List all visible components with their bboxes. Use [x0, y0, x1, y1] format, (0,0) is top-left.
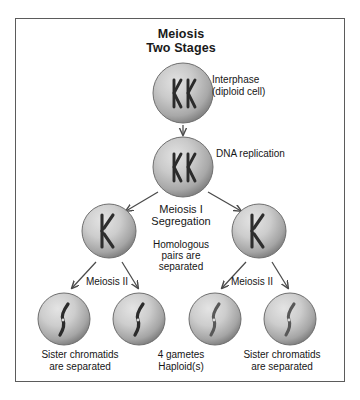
title-line-2: Two Stages	[16, 41, 346, 55]
replication-cell	[153, 137, 213, 197]
centromere	[104, 230, 107, 233]
label-meiosis-two-right: Meiosis II	[212, 276, 292, 288]
centromere	[254, 230, 257, 233]
label-meiosis-one-sub: Homologous pairs are separated	[111, 239, 251, 272]
label-dna-replication: DNA replication	[216, 148, 285, 160]
gamete-cell-2	[113, 293, 165, 345]
interphase-cell	[153, 63, 213, 123]
gamete-cell-3	[189, 293, 241, 345]
page-title: Meiosis Two Stages	[16, 27, 346, 55]
caption-middle: 4 gametes Haploid(s)	[132, 349, 230, 372]
gamete-cell-1	[38, 293, 90, 345]
caption-left: Sister chromatids are separated	[21, 349, 139, 372]
gamete-cell-4	[264, 293, 316, 345]
label-meiosis-one-block: Meiosis I Segregation Homologous pairs a…	[111, 191, 251, 284]
caption-right: Sister chromatids are separated	[223, 349, 341, 372]
label-meiosis-two-left: Meiosis II	[67, 276, 147, 288]
label-interphase: Interphase (diploid cell)	[212, 74, 265, 97]
meiosis-diagram-frame: Meiosis Two Stages Interphase (diploid c…	[15, 18, 345, 382]
label-meiosis-one-heading: Meiosis I Segregation	[111, 203, 251, 228]
title-line-1: Meiosis	[16, 27, 346, 41]
